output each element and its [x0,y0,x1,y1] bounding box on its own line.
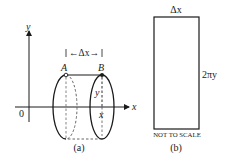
radius-label: y [94,87,100,98]
x-axis-label: x [131,101,137,112]
unrolled-rectangle [154,17,199,129]
not-to-scale-note: NOT TO SCALE [153,131,201,138]
diagram-canvas: y x 0 A B ←Δx→ y x (a) [0,0,234,156]
point-a-label: A [60,62,68,73]
origin-label: 0 [19,108,24,119]
y-axis-label: y [25,21,31,32]
figure-a: y x 0 A B ←Δx→ y x (a) [15,21,137,154]
point-b [100,73,104,77]
point-a [64,73,68,77]
figure-b: Δx 2πy NOT TO SCALE (b) [153,4,217,154]
rect-side-label: 2πy [202,69,217,80]
delta-x-label: ←Δx→ [69,48,99,58]
figure-b-caption: (b) [170,142,182,154]
position-label: x [98,109,104,120]
figure-a-caption: (a) [73,142,84,154]
point-b-label: B [98,62,104,73]
rect-top-label: Δx [170,4,181,15]
